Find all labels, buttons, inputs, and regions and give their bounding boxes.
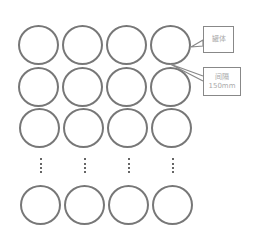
callout-tank-body-label: 罐体: [212, 35, 226, 44]
callout-spacing: 间隔 150mm: [203, 67, 241, 96]
callout-spacing-line2: 150mm: [209, 82, 236, 91]
callout-spacing-line1: 间隔: [215, 73, 229, 82]
callout-tank-body: 罐体: [203, 26, 234, 53]
